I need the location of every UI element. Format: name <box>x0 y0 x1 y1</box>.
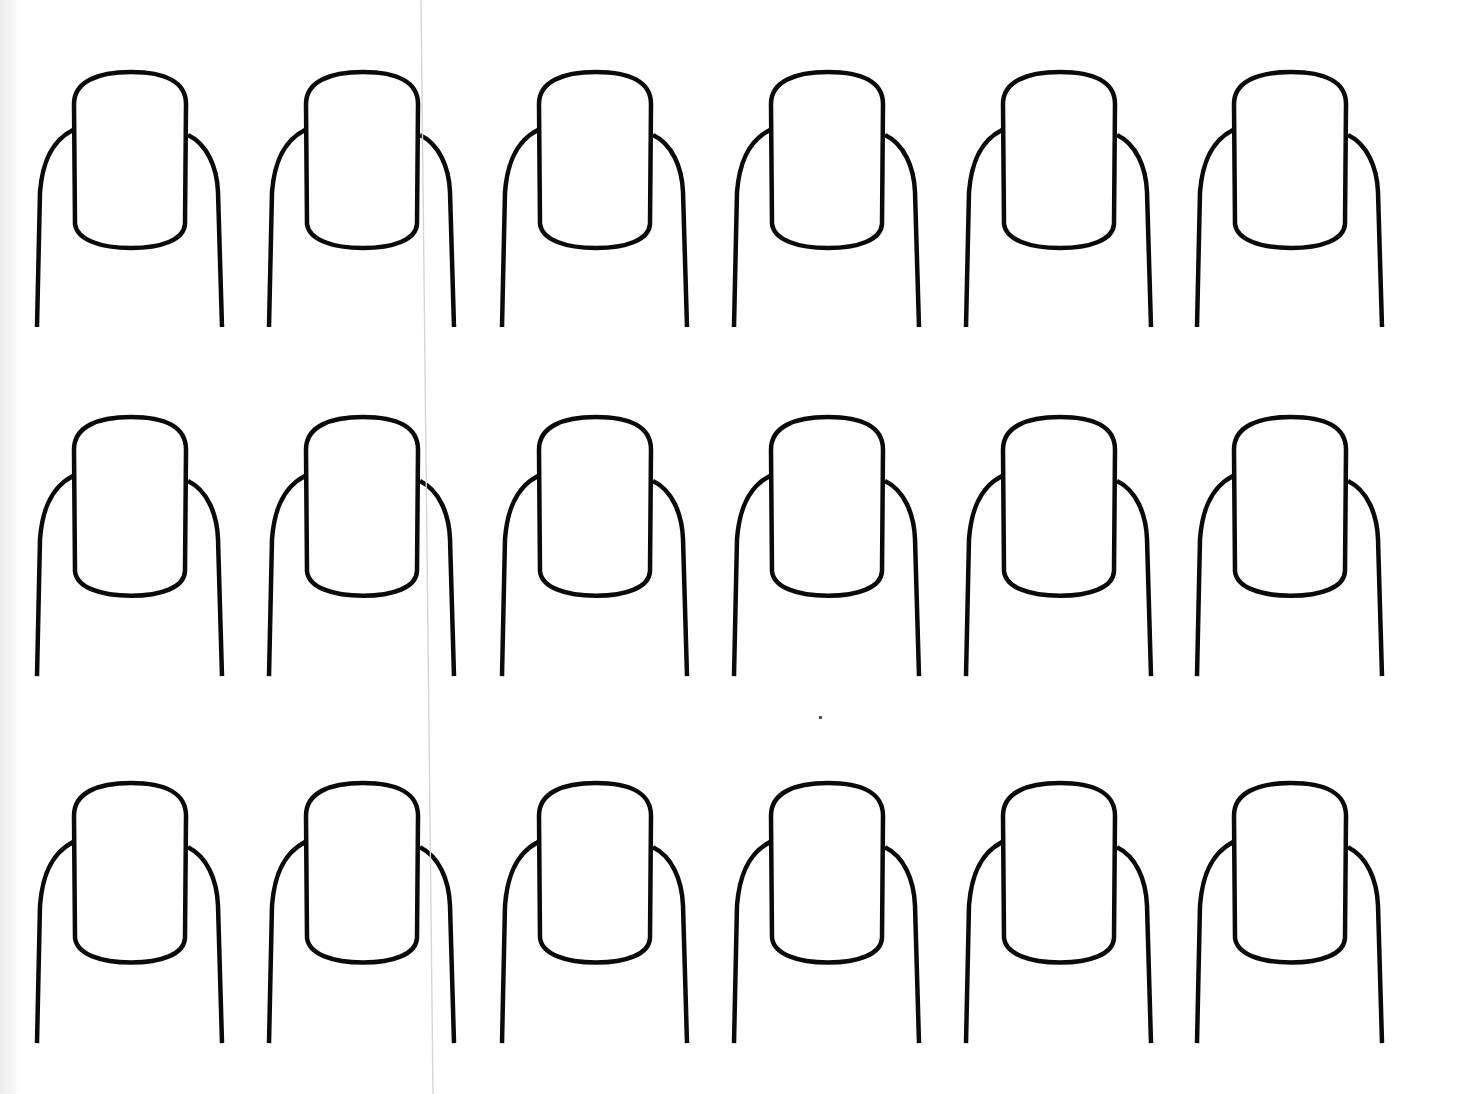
nail-outline-r2-c3 <box>502 417 687 676</box>
nail-outline-r1-c1 <box>37 72 222 327</box>
nail-outline-r3-c6 <box>1197 783 1382 1043</box>
nail-outline-r1-c2 <box>269 72 454 327</box>
nail-outline-r2-c6 <box>1197 417 1382 676</box>
nail-outline-r3-c3 <box>502 783 687 1043</box>
nail-outline-r1-c6 <box>1197 72 1382 327</box>
nail-outline-r1-c5 <box>966 72 1151 327</box>
nail-template-page <box>0 0 1470 1094</box>
fold-line <box>421 0 433 1094</box>
nail-outline-r3-c2 <box>269 783 454 1043</box>
nail-outline-r2-c1 <box>37 417 222 676</box>
nail-outline-r2-c4 <box>734 417 919 676</box>
nail-outline-r2-c5 <box>966 417 1151 676</box>
scan-speck <box>819 716 822 719</box>
nail-outline-r1-c4 <box>734 72 919 327</box>
nail-grid <box>0 0 1470 1094</box>
nail-outline-r3-c1 <box>37 783 222 1043</box>
nail-outline-r3-c4 <box>734 783 919 1043</box>
nail-outline-r1-c3 <box>502 72 687 327</box>
nail-outline-r3-c5 <box>966 783 1151 1043</box>
